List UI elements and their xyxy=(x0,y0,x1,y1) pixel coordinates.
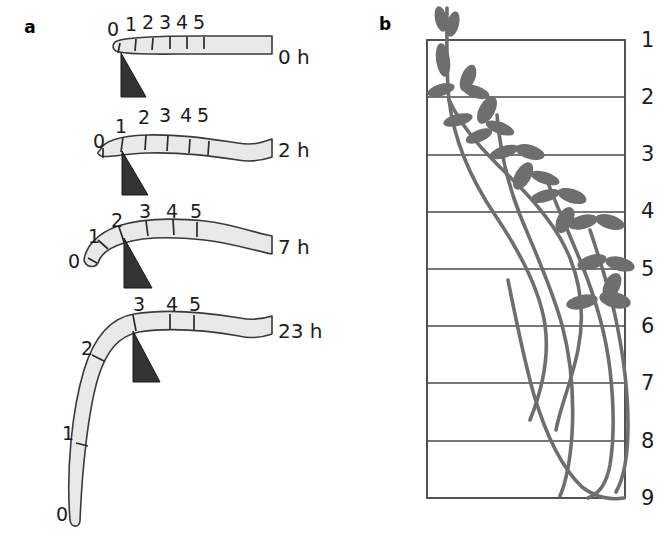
grid-row-label: 4 xyxy=(641,199,654,223)
grid-row-label: 3 xyxy=(641,142,654,166)
tick-label: 3 xyxy=(133,293,145,315)
tick-label: 3 xyxy=(159,104,171,126)
tick-label: 4 xyxy=(176,11,188,33)
tick-label: 2 xyxy=(81,337,93,359)
leaf-cluster-e xyxy=(567,211,627,233)
tick-label: 5 xyxy=(189,293,201,315)
position-marker-triangle-0h xyxy=(121,53,146,97)
grid-row-label: 7 xyxy=(641,371,654,395)
tick-label: 2 xyxy=(111,209,123,231)
grid-row-label: 6 xyxy=(641,314,654,338)
leaf-cluster-a xyxy=(426,62,491,102)
tick-label: 2 xyxy=(142,11,154,33)
time-label-23h: 23 h xyxy=(278,319,322,343)
grid-row-label: 2 xyxy=(641,85,654,109)
tick-label: 5 xyxy=(190,200,202,222)
shoot-stem-1 xyxy=(447,8,546,420)
tick-label: 0 xyxy=(56,503,68,525)
figure-canvas: a 0 1 2 3 4 5 xyxy=(0,0,667,545)
time-label-7h: 7 h xyxy=(278,235,310,259)
tick-label: 3 xyxy=(159,11,171,33)
leaf xyxy=(604,254,636,275)
tick-label: 1 xyxy=(62,422,74,444)
panel-a: a 0 1 2 3 4 5 xyxy=(24,11,322,526)
position-marker-triangle-23h xyxy=(133,331,160,382)
position-marker-triangle-2h xyxy=(122,151,148,195)
time-label-0h: 0 h xyxy=(278,45,310,69)
leaf xyxy=(514,141,547,163)
shoot-body-23h xyxy=(69,311,272,526)
shoot-body-0h xyxy=(113,36,272,54)
shoot-stage-0h: 0 1 2 3 4 5 0 h xyxy=(107,11,310,97)
leaf-cluster-b xyxy=(442,93,516,147)
tick-label: 4 xyxy=(166,200,178,222)
tick-label: 5 xyxy=(197,104,209,126)
tick-label: 5 xyxy=(193,11,205,33)
leaf xyxy=(434,42,453,78)
panel-b-letter: b xyxy=(379,14,391,34)
leaf xyxy=(556,185,589,208)
tick-label: 1 xyxy=(88,225,100,247)
shoot-stage-7h: 0 1 2 3 4 5 7 h xyxy=(68,200,310,288)
grid-row-label: 5 xyxy=(641,257,654,281)
leaf xyxy=(529,168,561,189)
time-label-2h: 2 h xyxy=(278,138,310,162)
tick-label: 2 xyxy=(138,106,150,128)
grid-row-labels: 1 2 3 4 5 6 7 8 9 xyxy=(641,28,654,510)
tick-label: 0 xyxy=(107,18,119,40)
panel-b: b 1 2 3 4 5 6 7 8 9 xyxy=(379,5,654,510)
shoot-stage-2h: 0 1 2 3 4 5 2 h xyxy=(93,104,310,195)
grid-row-label: 1 xyxy=(641,28,654,52)
position-marker-triangle-7h xyxy=(124,238,152,288)
tick-label: 4 xyxy=(166,293,178,315)
leaf xyxy=(594,211,627,233)
tick-label: 0 xyxy=(93,130,105,152)
tick-label: 0 xyxy=(68,250,80,272)
tick-label: 4 xyxy=(180,104,192,126)
tick-label: 1 xyxy=(125,13,137,35)
grid-row-label: 9 xyxy=(641,486,654,510)
shoot-stage-23h: 0 1 2 3 4 5 23 h xyxy=(56,293,323,526)
plant-shoots xyxy=(426,5,636,499)
figure-root: a 0 1 2 3 4 5 xyxy=(0,0,667,545)
panel-a-letter: a xyxy=(24,17,35,37)
grid-row-label: 8 xyxy=(641,429,654,453)
tick-label: 3 xyxy=(139,200,151,222)
tick-label: 1 xyxy=(115,115,127,137)
